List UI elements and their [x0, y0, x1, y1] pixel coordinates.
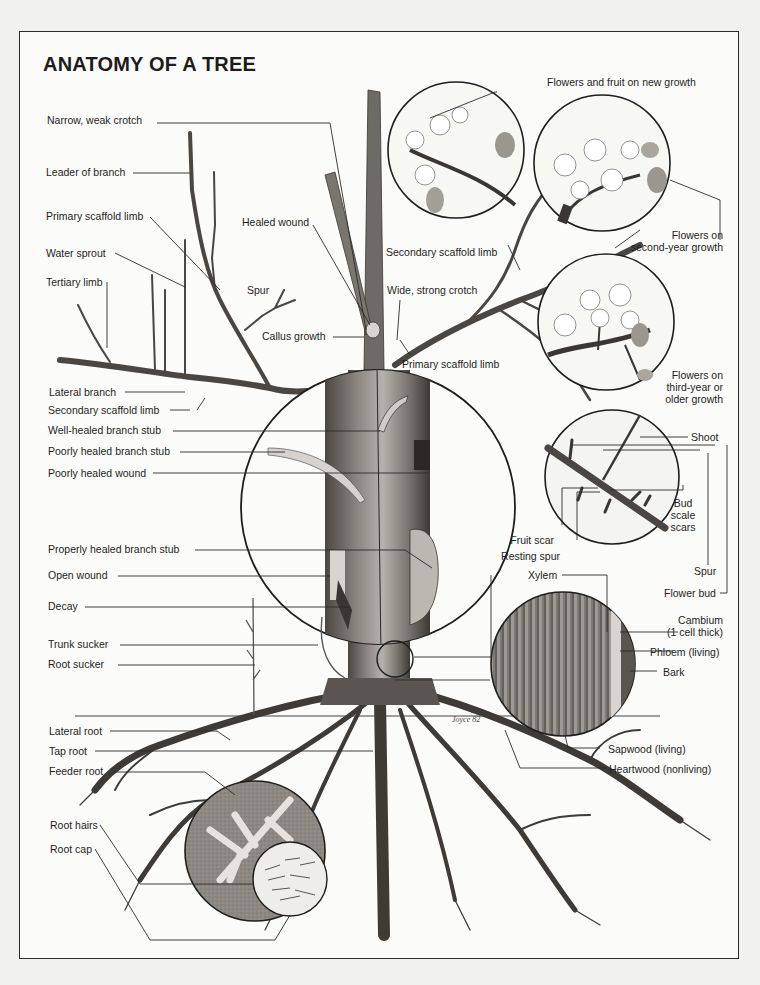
label-line: Flowers on	[665, 369, 723, 381]
label-line: scars	[663, 521, 703, 533]
root-system	[80, 690, 710, 935]
label-primary-scaffold-limb-right: Primary scaffold limb	[402, 358, 499, 370]
wood-section-circle	[491, 590, 635, 740]
label-root-cap: Root cap	[50, 843, 92, 855]
label-line: third-year or	[665, 381, 723, 393]
label-open-wound: Open wound	[48, 569, 108, 581]
label-shoot: Shoot	[691, 431, 718, 443]
label-poorly-healed-wound: Poorly healed wound	[48, 467, 146, 479]
label-narrow-weak-crotch: Narrow, weak crotch	[47, 114, 142, 126]
label-lateral-root: Lateral root	[49, 725, 102, 737]
flower-circle-new-growth	[388, 82, 524, 218]
label-flowers-fruit-new-growth: Flowers and fruit on new growth	[547, 76, 696, 88]
spur-detail-circle	[545, 410, 679, 544]
label-root-sucker: Root sucker	[48, 658, 104, 670]
tree-illustration: Joyce 82	[0, 0, 760, 985]
root-collar	[320, 678, 440, 705]
artist-signature: Joyce 82	[452, 715, 480, 724]
label-line: Bud	[663, 497, 703, 509]
label-root-hairs: Root hairs	[50, 819, 98, 831]
label-bark: Bark	[663, 666, 685, 678]
label-flower-bud: Flower bud	[664, 587, 716, 599]
label-spur-detail: Spur	[694, 565, 716, 577]
label-phloem: Phloem (living)	[650, 646, 719, 658]
label-tertiary-limb: Tertiary limb	[46, 276, 103, 288]
label-wide-strong-crotch: Wide, strong crotch	[387, 284, 477, 296]
root-cap-circle	[253, 842, 327, 916]
label-lateral-branch: Lateral branch	[49, 386, 116, 398]
label-healed-wound: Healed wound	[242, 216, 309, 228]
label-flowers-second-year: Flowers on second-year growth	[631, 229, 723, 253]
flower-circle-second-year	[534, 95, 670, 231]
root-detail-circle	[185, 781, 327, 921]
label-resting-spur: Resting spur	[501, 550, 560, 562]
label-line: Cambium	[667, 614, 723, 626]
label-line: scale	[663, 509, 703, 521]
label-flowers-third-year: Flowers on third-year or older growth	[665, 369, 723, 405]
label-leader-of-branch: Leader of branch	[46, 166, 125, 178]
page-title: ANATOMY OF A TREE	[43, 53, 256, 76]
label-line: older growth	[665, 393, 723, 405]
label-cambium: Cambium (1 cell thick)	[667, 614, 723, 638]
label-poorly-healed-branch-stub: Poorly healed branch stub	[48, 445, 170, 457]
label-callus-growth: Callus growth	[262, 330, 326, 342]
label-primary-scaffold-limb-left: Primary scaffold limb	[46, 210, 143, 222]
label-line: (1 cell thick)	[667, 626, 723, 638]
label-xylem: Xylem	[528, 569, 557, 581]
narrow-crotch-branch	[325, 172, 372, 335]
trunk-cutaway-circle	[241, 365, 515, 655]
label-heartwood: Heartwood (nonliving)	[609, 763, 711, 775]
label-line: second-year growth	[631, 241, 723, 253]
label-properly-healed-branch-stub: Properly healed branch stub	[48, 543, 179, 555]
flower-circle-third-year	[538, 254, 674, 390]
label-well-healed-branch-stub: Well-healed branch stub	[48, 424, 161, 436]
label-water-sprout: Water sprout	[46, 247, 106, 259]
label-spur-branch: Spur	[247, 284, 269, 296]
label-trunk-sucker: Trunk sucker	[48, 638, 108, 650]
label-line: Flowers on	[631, 229, 723, 241]
label-fruit-scar: Fruit scar	[510, 534, 554, 546]
label-decay: Decay	[48, 600, 78, 612]
label-secondary-scaffold-limb-left: Secondary scaffold limb	[48, 404, 159, 416]
label-bud-scale-scars: Bud scale scars	[663, 497, 703, 533]
callus-growth	[366, 322, 380, 338]
label-secondary-scaffold-limb-right: Secondary scaffold limb	[386, 246, 497, 258]
label-sapwood: Sapwood (living)	[608, 743, 686, 755]
root-sucker	[246, 598, 260, 715]
label-tap-root: Tap root	[49, 745, 87, 757]
label-feeder-root: Feeder root	[49, 765, 103, 777]
